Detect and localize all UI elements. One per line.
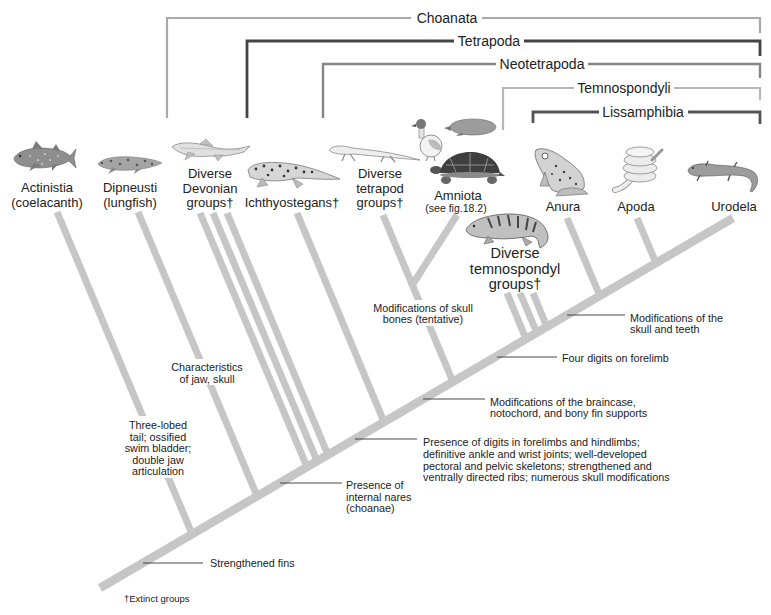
taxon-common-name: (coelacanth): [11, 195, 83, 210]
taxon-line: tetrapod: [356, 181, 404, 196]
footnote-extinct-groups: †Extinct groups: [124, 593, 190, 604]
taxon-devonian-groups: Diverse Devonian groups†: [183, 166, 238, 210]
clade-label-lissamphibia: Lissamphibia: [602, 104, 684, 120]
taxon-amniota: Amniota (see fig.18.2): [425, 188, 486, 215]
taxon-dipneusti: Dipneusti (lungfish): [103, 180, 157, 210]
taxon-line: Diverse: [490, 245, 539, 261]
character-text: skull and teeth: [630, 323, 700, 335]
taxon-name: Actinistia: [21, 180, 74, 195]
taxon-line: groups†: [489, 276, 541, 292]
taxon-anura: Anura: [546, 199, 581, 214]
character-text: (choanae): [346, 502, 395, 514]
cladogram-figure: Choanata Tetrapoda Neotetrapoda Temnospo…: [0, 0, 771, 615]
taxon-line: Diverse: [188, 166, 232, 181]
character-text: Three-lobed: [129, 419, 187, 431]
character-skull-bones-tentative: Modifications of skull bones (tentative): [372, 300, 474, 326]
taxon-tetrapod-groups: Diverse tetrapod groups†: [356, 166, 404, 210]
character-text: ventrally directed ribs; numerous skull …: [423, 471, 670, 483]
character-text: Strengthened fins: [210, 557, 295, 569]
character-text: of jaw, skull: [179, 373, 234, 385]
taxon-common-name: (lungfish): [103, 195, 156, 210]
taxon-line: Devonian: [183, 181, 238, 196]
character-text: Four digits on forelimb: [562, 352, 669, 364]
taxon-ichthyostegans: Ichthyostegans†: [245, 195, 340, 210]
clade-label-choanata: Choanata: [417, 10, 478, 26]
clade-label-tetrapoda: Tetrapoda: [458, 33, 520, 49]
taxon-line: groups†: [357, 195, 404, 210]
clade-label-neotetrapoda: Neotetrapoda: [500, 56, 585, 72]
taxon-line: Diverse: [358, 166, 402, 181]
character-text: bones (tentative): [383, 313, 463, 325]
character-text: definitive ankle and wrist joints; well-…: [423, 448, 647, 460]
taxon-line: temnospondyl: [470, 261, 560, 277]
taxon-apoda: Apoda: [617, 199, 655, 214]
character-text: Presence of digits in forelimbs and hind…: [423, 436, 640, 448]
clade-label-temnospondyli: Temnospondyli: [577, 80, 670, 96]
character-text: Presence of: [346, 479, 405, 491]
taxon-name: Ichthyostegans†: [245, 195, 340, 210]
character-text: swim bladder;: [125, 442, 192, 454]
character-text: articulation: [132, 465, 184, 477]
taxon-actinistia: Actinistia (coelacanth): [11, 180, 83, 210]
character-text: Characteristics: [171, 361, 243, 373]
taxon-urodela: Urodela: [711, 199, 757, 214]
taxon-name: Amniota: [434, 188, 482, 203]
taxon-name: Dipneusti: [103, 180, 157, 195]
taxon-line: groups†: [187, 195, 234, 210]
character-jaw-skull: Characteristics of jaw, skull: [170, 359, 245, 385]
figure-reference: (see fig.18.2): [425, 202, 486, 214]
character-three-lobed-tail: Three-lobed tail; ossified swim bladder;…: [122, 416, 194, 478]
character-text: notochord, and bony fin supports: [490, 407, 648, 419]
